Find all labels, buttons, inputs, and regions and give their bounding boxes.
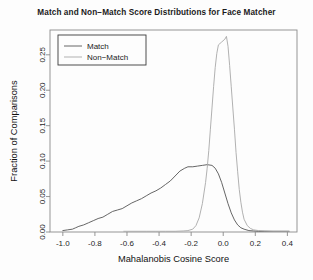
plot-canvas: -1.0-0.8-0.6-0.4-0.20.00.20.4 0.000.050.… (0, 0, 313, 280)
series-line-non-match (124, 36, 289, 231)
y-tick-label: 0.20 (38, 82, 47, 98)
x-axis-ticks: -1.0-0.8-0.6-0.4-0.20.00.20.4 (56, 232, 294, 248)
legend-label-0: Match (87, 42, 109, 51)
x-tick-label: -0.2 (184, 239, 198, 248)
y-axis-ticks: 0.000.050.100.150.200.25 (38, 46, 50, 239)
chart-figure: Match and Non−Match Score Distributions … (0, 0, 313, 280)
x-tick-label: -1.0 (56, 239, 70, 248)
legend-label-1: Non−Match (87, 53, 128, 62)
chart-legend: MatchNon−Match (58, 35, 146, 65)
y-tick-label: 0.10 (38, 153, 47, 169)
y-tick-label: 0.00 (38, 224, 47, 240)
x-tick-label: -0.6 (120, 239, 134, 248)
y-tick-label: 0.05 (38, 188, 47, 204)
x-tick-label: 0.0 (218, 239, 230, 248)
x-axis-title: Mahalanobis Cosine Score (118, 254, 229, 264)
x-tick-label: 0.2 (250, 239, 262, 248)
y-tick-label: 0.25 (38, 46, 47, 62)
series-line-match (63, 165, 289, 232)
y-axis-title: Fraction of Comparisons (9, 80, 19, 182)
y-tick-label: 0.15 (38, 117, 47, 133)
x-tick-label: 0.4 (282, 239, 294, 248)
x-tick-label: -0.4 (152, 239, 166, 248)
data-series (63, 36, 289, 231)
x-tick-label: -0.8 (88, 239, 102, 248)
